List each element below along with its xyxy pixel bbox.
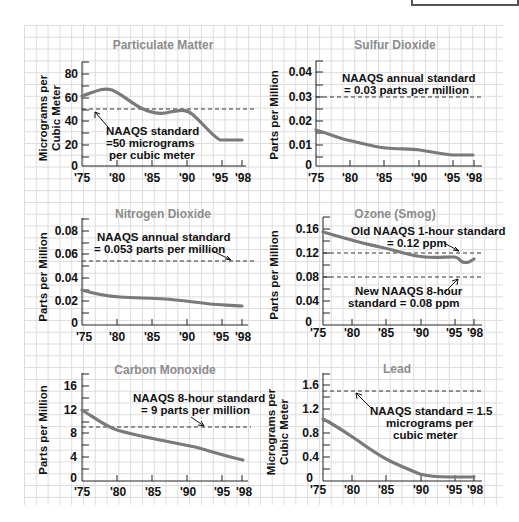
standard-annotation: NAAQS 8-hour standard = 9 parts per mill… — [133, 392, 265, 416]
svg-text:Micrograms per: Micrograms per — [265, 388, 277, 475]
svg-text:0.06: 0.06 — [55, 247, 79, 261]
x-tick-labels: '75 '80 '85 '90 '95 '98 — [76, 330, 252, 344]
svg-text:per cubic meter: per cubic meter — [109, 149, 195, 161]
svg-text:'98: '98 — [467, 326, 484, 340]
chart-carbon-monoxide: Carbon Monoxide Parts per Million 16 12 … — [37, 363, 265, 499]
svg-text:'80: '80 — [344, 483, 361, 497]
svg-text:40: 40 — [65, 114, 79, 128]
chart-title: Ozone (Smog) — [354, 207, 435, 221]
chart-particulate-matter: Particulate Matter Micrograms per Cubic … — [37, 38, 256, 185]
y-ticks — [82, 219, 89, 313]
chart-title: Sulfur Dioxide — [354, 38, 436, 52]
svg-text:'90: '90 — [413, 326, 430, 340]
svg-text:0.04: 0.04 — [55, 271, 79, 285]
data-line — [82, 410, 243, 460]
svg-text:standard = 0.08 ppm: standard = 0.08 ppm — [348, 297, 460, 309]
svg-text:'80: '80 — [109, 330, 126, 344]
svg-text:'95: '95 — [213, 330, 230, 344]
svg-text:'75: '75 — [310, 326, 327, 340]
svg-text:'98: '98 — [467, 483, 484, 497]
svg-text:0.12: 0.12 — [296, 246, 320, 260]
x-ticks — [352, 319, 474, 325]
svg-text:NAAQS standard: NAAQS standard — [106, 125, 199, 137]
svg-text:micrograms per: micrograms per — [386, 417, 473, 429]
y-ticks — [316, 61, 323, 157]
svg-text:'80: '80 — [109, 171, 126, 185]
chart-lead: Lead Micrograms per Cubic Meter 1.6 1.2 … — [265, 362, 493, 497]
chart-nitrogen-dioxide: Nitrogen Dioxide Parts per Million 0.08 … — [37, 207, 256, 344]
svg-text:New NAAQS 8-hour: New NAAQS 8-hour — [355, 285, 463, 297]
y-axis-label: Parts per Million — [37, 385, 49, 474]
y-axis-label: Parts per Million — [268, 70, 280, 159]
svg-text:20: 20 — [65, 138, 79, 152]
svg-text:Cubic Meter: Cubic Meter — [278, 399, 290, 465]
y-tick-labels: 1.6 1.2 0.8 0.4 0 — [302, 378, 319, 485]
svg-text:'85: '85 — [378, 326, 395, 340]
x-ticks — [117, 475, 242, 481]
svg-text:'75: '75 — [76, 330, 93, 344]
svg-text:= 9 parts per million: = 9 parts per million — [141, 404, 250, 416]
svg-text:'85: '85 — [376, 171, 393, 185]
svg-text:NAAQS annual standard: NAAQS annual standard — [97, 231, 231, 243]
svg-text:'75: '75 — [308, 171, 325, 185]
svg-text:0.03: 0.03 — [289, 90, 313, 104]
x-tick-labels: '75 '80 '85 '90 '95 '98 — [74, 171, 252, 185]
svg-text:'98: '98 — [236, 485, 253, 499]
svg-text:'85: '85 — [145, 485, 162, 499]
svg-text:'75: '75 — [310, 483, 327, 497]
data-line — [82, 290, 242, 306]
svg-text:'95: '95 — [214, 485, 231, 499]
svg-text:'85: '85 — [144, 330, 161, 344]
y-tick-labels: 0.16 0.12 0.08 0.04 0 — [296, 222, 320, 329]
svg-text:NAAQS annual standard: NAAQS annual standard — [342, 72, 476, 84]
svg-text:'95: '95 — [444, 171, 461, 185]
y-axis-label: Parts per Million — [37, 232, 49, 321]
data-line — [316, 130, 473, 155]
svg-text:Cubic Meter: Cubic Meter — [50, 85, 62, 151]
svg-text:0.04: 0.04 — [289, 65, 313, 79]
x-tick-labels: '75 '80 '85 '90 '95 '98 — [310, 483, 484, 497]
standard-annotation: NAAQS standard =50 micrograms per cubic … — [106, 125, 199, 161]
svg-text:0.02: 0.02 — [55, 294, 79, 308]
chart-title: Nitrogen Dioxide — [115, 207, 211, 221]
svg-text:'95: '95 — [446, 483, 463, 497]
chart-ozone: Ozone (Smog) Parts per Million 0.16 0.12… — [268, 207, 506, 340]
standard-annotation: NAAQS annual standard = 0.03 parts per m… — [342, 72, 476, 96]
y-tick-labels: 0.08 0.06 0.04 0.02 0 — [55, 224, 79, 330]
y-ticks — [82, 374, 89, 469]
svg-text:0.01: 0.01 — [289, 138, 313, 152]
svg-text:0.4: 0.4 — [302, 450, 319, 464]
svg-text:'95: '95 — [212, 171, 229, 185]
svg-text:= 0.12 ppm: = 0.12 ppm — [387, 237, 447, 249]
svg-text:'90: '90 — [411, 171, 428, 185]
x-ticks — [350, 160, 474, 166]
svg-text:'85: '85 — [144, 171, 161, 185]
svg-text:'90: '90 — [179, 330, 196, 344]
svg-text:0.08: 0.08 — [55, 224, 79, 238]
x-tick-labels: '75 '80 '85 '90 '95 '98 — [74, 485, 253, 499]
svg-text:'85: '85 — [378, 483, 395, 497]
y-axis-label: Micrograms per Cubic Meter — [37, 74, 62, 161]
svg-text:NAAQS standard = 1.5: NAAQS standard = 1.5 — [370, 405, 493, 417]
svg-text:'98: '98 — [235, 171, 252, 185]
svg-text:0.16: 0.16 — [296, 222, 320, 236]
standard-annotation: NAAQS standard = 1.5 micrograms per cubi… — [370, 405, 493, 441]
svg-text:80: 80 — [65, 67, 79, 81]
standard-annotation: NAAQS annual standard = 0.053 parts per … — [94, 231, 231, 255]
svg-text:'90: '90 — [413, 483, 430, 497]
svg-text:0.04: 0.04 — [296, 294, 320, 308]
standard-annotation-new: New NAAQS 8-hour standard = 0.08 ppm — [348, 285, 463, 309]
y-tick-labels: 16 12 8 4 0 — [64, 379, 78, 485]
svg-text:= 0.03 parts per million: = 0.03 parts per million — [344, 84, 469, 96]
svg-text:0.8: 0.8 — [302, 426, 319, 440]
chart-title: Lead — [383, 362, 411, 376]
x-tick-labels: '75 '80 '85 '90 '95 '98 — [310, 326, 484, 340]
chart-sulfur-dioxide: Sulfur Dioxide Parts per Million 0.04 0.… — [268, 38, 482, 185]
x-tick-labels: '75 '80 '85 '90 '95 '98 — [308, 171, 483, 185]
svg-text:1.6: 1.6 — [302, 378, 319, 392]
svg-text:0.02: 0.02 — [289, 114, 313, 128]
svg-text:8: 8 — [70, 426, 77, 440]
svg-text:'80: '80 — [342, 171, 359, 185]
svg-text:16: 16 — [64, 379, 78, 393]
svg-text:Old NAAQS 1-hour standard: Old NAAQS 1-hour standard — [351, 225, 506, 237]
